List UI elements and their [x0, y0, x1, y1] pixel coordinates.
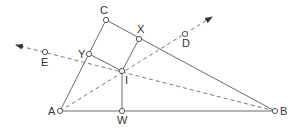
- label-I: I: [125, 74, 128, 86]
- segment-YI: [89, 54, 122, 71]
- bisector-ray-A: [60, 17, 212, 111]
- point-A: [57, 108, 62, 113]
- label-W: W: [117, 114, 128, 126]
- diagram-svg: ABCXYIWDE: [0, 0, 300, 129]
- label-D: D: [182, 37, 190, 49]
- geometry-diagram: ABCXYIWDE: [0, 0, 300, 129]
- point-W: [119, 108, 124, 113]
- point-Y: [86, 51, 91, 56]
- point-D: [182, 31, 187, 36]
- bisector-ray-B: [16, 45, 275, 111]
- point-C: [103, 17, 108, 22]
- label-B: B: [280, 105, 287, 117]
- segment-XI: [122, 39, 139, 71]
- label-Y: Y: [78, 48, 86, 60]
- point-E: [42, 49, 47, 54]
- segment-CB: [106, 20, 275, 111]
- label-C: C: [100, 4, 108, 16]
- point-B: [272, 108, 277, 113]
- point-I: [119, 68, 124, 73]
- label-A: A: [48, 105, 56, 117]
- label-E: E: [41, 56, 48, 68]
- point-X: [136, 36, 141, 41]
- label-X: X: [137, 23, 145, 35]
- segment-AC: [60, 20, 106, 111]
